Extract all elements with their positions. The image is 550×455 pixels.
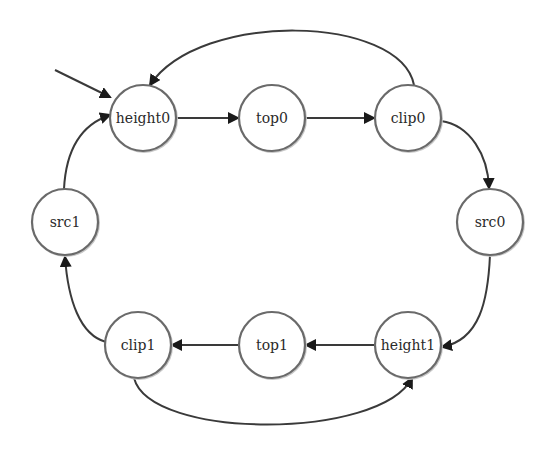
edge-clip1-height1 bbox=[134, 378, 412, 425]
edge-clip0-src0 bbox=[441, 121, 489, 188]
node-label: src1 bbox=[50, 214, 81, 230]
node-clip1: clip1 bbox=[105, 312, 172, 379]
node-height1: height1 bbox=[375, 312, 442, 379]
node-label: clip1 bbox=[121, 337, 156, 353]
node-label: height1 bbox=[381, 337, 435, 353]
node-height0: height0 bbox=[110, 85, 177, 152]
node-label: clip0 bbox=[391, 110, 426, 126]
state-diagram: height0 top0 clip0 src0 height1 top1 cli… bbox=[0, 0, 550, 455]
node-clip0: clip0 bbox=[375, 85, 442, 152]
node-label: height0 bbox=[116, 110, 170, 126]
edge-clip1-src1 bbox=[65, 257, 106, 342]
node-src0: src0 bbox=[457, 189, 524, 256]
node-top1: top1 bbox=[239, 312, 306, 379]
edge-start-height0 bbox=[55, 70, 110, 97]
edge-clip0-height0 bbox=[150, 31, 414, 85]
node-label: src0 bbox=[475, 214, 506, 230]
node-label: top0 bbox=[256, 110, 288, 126]
node-src1: src1 bbox=[32, 189, 99, 256]
node-label: top1 bbox=[256, 337, 288, 353]
node-top0: top0 bbox=[239, 85, 306, 152]
edge-src0-height1 bbox=[442, 255, 490, 347]
edge-src1-height0 bbox=[64, 115, 110, 189]
